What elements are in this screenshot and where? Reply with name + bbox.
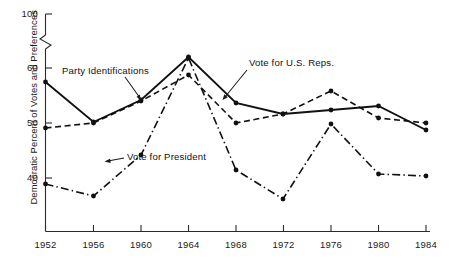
data-point <box>329 108 334 113</box>
x-tick-label-1956: 1956 <box>74 240 114 250</box>
data-point <box>376 104 381 109</box>
leader-arrow-vote-for-president <box>105 159 111 163</box>
chart-series-group <box>46 57 427 199</box>
x-tick-label-1980: 1980 <box>359 240 399 250</box>
data-point <box>91 120 96 125</box>
data-point <box>329 122 334 127</box>
leader-line-vote-for-president <box>108 158 124 161</box>
data-point <box>329 89 334 94</box>
data-point <box>234 101 239 106</box>
data-point <box>91 194 96 199</box>
y-tick-label-50: 50 <box>6 118 38 128</box>
x-axis-ticks <box>46 225 427 232</box>
data-point <box>43 80 48 85</box>
y-tick-label-60: 60 <box>6 63 38 73</box>
data-point <box>424 128 429 133</box>
x-tick-label-1952: 1952 <box>26 240 66 250</box>
data-point <box>376 116 381 121</box>
data-point <box>186 73 191 78</box>
x-tick-label-1968: 1968 <box>216 240 256 250</box>
data-point <box>281 112 286 117</box>
annotation-vote-for-president: Vote for President <box>127 152 206 162</box>
x-tick-label-1960: 1960 <box>121 240 161 250</box>
data-point <box>281 197 286 202</box>
leader-line-vote-for-us-reps <box>225 70 247 97</box>
y-axis-break-icon <box>40 35 51 231</box>
chart-figure: Democratic Percent of Votes and Preferen… <box>0 0 449 261</box>
leader-line-party-identifications <box>125 77 140 98</box>
y-axis-ticks <box>46 14 53 178</box>
y-tick-label-40: 40 <box>6 173 38 183</box>
data-point <box>43 182 48 187</box>
x-tick-label-1972: 1972 <box>264 240 304 250</box>
data-point <box>234 168 239 173</box>
y-tick-label-100: 100 <box>6 9 38 19</box>
series-markers-vote-for-president <box>43 56 428 202</box>
data-point <box>424 174 429 179</box>
annotation-vote-for-us-reps: Vote for U.S. Reps. <box>249 58 334 68</box>
x-tick-label-1976: 1976 <box>311 240 351 250</box>
x-tick-label-1984: 1984 <box>406 240 446 250</box>
data-point <box>376 172 381 177</box>
data-point <box>186 55 191 60</box>
annotation-party-identifications: Party Identifications <box>62 66 149 76</box>
series-line-vote-for-president <box>46 58 427 199</box>
chart-plot-area <box>0 0 449 261</box>
x-tick-label-1964: 1964 <box>169 240 209 250</box>
data-point <box>43 126 48 131</box>
data-point <box>424 121 429 126</box>
data-point <box>234 121 239 126</box>
